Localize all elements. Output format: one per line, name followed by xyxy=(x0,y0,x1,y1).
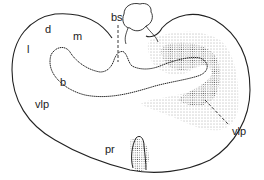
label-vlp-left: vlp xyxy=(35,99,49,110)
diagram-svg xyxy=(0,0,264,180)
label-m: m xyxy=(73,31,82,42)
label-b: b xyxy=(60,77,66,88)
embryo-diagram: bs d m l b vlp vlp pr xyxy=(0,0,264,180)
label-l: l xyxy=(27,44,29,55)
label-d: d xyxy=(45,24,51,35)
label-pr: pr xyxy=(105,144,115,155)
label-bs: bs xyxy=(111,12,123,23)
label-vlp-right: vlp xyxy=(232,126,246,137)
top-blob xyxy=(123,3,153,30)
